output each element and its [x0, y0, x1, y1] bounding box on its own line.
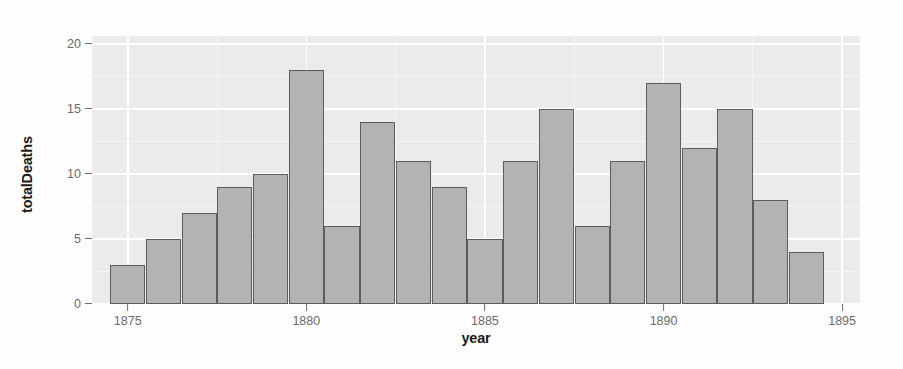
y-axis-tick-label: 0: [74, 297, 81, 311]
y-axis-tick-mark: [85, 303, 92, 304]
y-axis-tick: 15: [67, 101, 92, 117]
bar: [753, 200, 788, 304]
x-axis-tick: 1890: [650, 304, 678, 328]
bar: [789, 252, 824, 304]
x-axis-tick-mark: [663, 304, 664, 311]
bar: [110, 265, 145, 304]
x-axis-tick-label: 1895: [828, 314, 856, 328]
y-axis-tick-label: 5: [74, 232, 81, 246]
gridline-minor-horizontal: [92, 76, 860, 77]
bar-chart: totalDeaths 05101520 1875188018851890189…: [0, 0, 903, 369]
y-axis-tick: 20: [67, 36, 92, 52]
y-axis-tick-mark: [85, 173, 92, 174]
bar: [610, 161, 645, 304]
x-axis-tick: 1880: [292, 304, 320, 328]
y-axis-tick-mark: [85, 238, 92, 239]
bar: [360, 122, 395, 304]
x-axis-tick-label: 1890: [650, 314, 678, 328]
x-axis-tick-mark: [484, 304, 485, 311]
bar: [646, 83, 681, 304]
bar: [503, 161, 538, 304]
gridline-major-vertical: [841, 36, 843, 304]
bar: [146, 239, 181, 304]
gridline-major-vertical: [127, 36, 129, 304]
y-axis-tick: 5: [74, 231, 92, 247]
x-axis-tick: 1875: [114, 304, 142, 328]
x-axis-tick-mark: [306, 304, 307, 311]
bar: [467, 239, 502, 304]
x-axis-tick-mark: [127, 304, 128, 311]
bar: [253, 174, 288, 304]
x-axis-tick-mark: [842, 304, 843, 311]
bar: [717, 109, 752, 304]
bar: [217, 187, 252, 304]
y-axis-tick-label: 10: [67, 167, 81, 181]
x-axis-tick-label: 1885: [471, 314, 499, 328]
bar: [289, 70, 324, 304]
bar: [432, 187, 467, 304]
bar: [324, 226, 359, 304]
x-axis-tick: 1885: [471, 304, 499, 328]
bar: [539, 109, 574, 304]
bar: [396, 161, 431, 304]
y-axis-title: totalDeaths: [14, 60, 40, 290]
x-axis-title: year: [96, 330, 856, 346]
y-axis-tick-label: 15: [67, 102, 81, 116]
y-axis-tick-mark: [85, 108, 92, 109]
gridline-major-horizontal: [92, 43, 860, 45]
y-axis-tick: 0: [74, 296, 92, 312]
y-axis-tick-mark: [85, 43, 92, 44]
bar: [575, 226, 610, 304]
x-axis-tick: 1895: [828, 304, 856, 328]
plot-panel: [92, 36, 860, 304]
bar: [182, 213, 217, 304]
y-axis-tick: 10: [67, 166, 92, 182]
bar: [682, 148, 717, 304]
x-axis-tick-label: 1875: [114, 314, 142, 328]
y-axis-tick-label: 20: [67, 37, 81, 51]
y-axis-tick-labels: 05101520: [44, 36, 92, 304]
x-axis-tick-label: 1880: [292, 314, 320, 328]
